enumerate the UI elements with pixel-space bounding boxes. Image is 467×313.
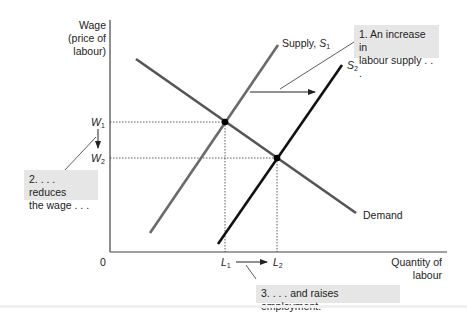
callout-1: 1. An increase in labour supply . . . — [354, 25, 439, 58]
w2-label: W2 — [91, 152, 105, 168]
supply-curve-s1 — [150, 45, 278, 233]
callout-3-leader — [246, 265, 256, 279]
x-axis-label-line2: labour — [380, 269, 442, 282]
equilibrium-point-1 — [222, 119, 229, 126]
y-axis-label-line1: Wage — [60, 19, 106, 32]
x-axis-label-line1: Quantity of — [380, 256, 442, 269]
callout-1-line2: labour supply . . . — [359, 54, 434, 80]
y-axis-label-line3: labour) — [60, 45, 106, 58]
callout-2-line2: the wage . . . — [29, 199, 93, 212]
demand-curve — [136, 59, 356, 213]
l2-label: L2 — [273, 256, 283, 272]
x-axis-label: Quantity of labour — [380, 256, 442, 282]
callout-1-line1: 1. An increase in — [359, 28, 434, 54]
equilibrium-point-2 — [274, 155, 281, 162]
callout-3-text: 3. . . . and raises employment. — [261, 287, 395, 313]
y-axis-label-line2: (price of — [60, 32, 106, 45]
w1-label: W1 — [91, 116, 105, 132]
l1-label: L1 — [221, 256, 231, 272]
origin-label: 0 — [100, 256, 106, 269]
demand-label: Demand — [363, 209, 403, 222]
callout-2: 2. . . . reduces the wage . . . — [24, 170, 98, 200]
y-axis-label: Wage (price of labour) — [60, 19, 106, 58]
callout-2-line1: 2. . . . reduces — [29, 173, 93, 199]
bottom-rule — [0, 305, 467, 308]
supply-s2-label: S2 — [347, 59, 358, 75]
supply-s1-label: Supply, S1 — [282, 37, 330, 53]
callout-3: 3. . . . and raises employment. — [256, 285, 400, 303]
